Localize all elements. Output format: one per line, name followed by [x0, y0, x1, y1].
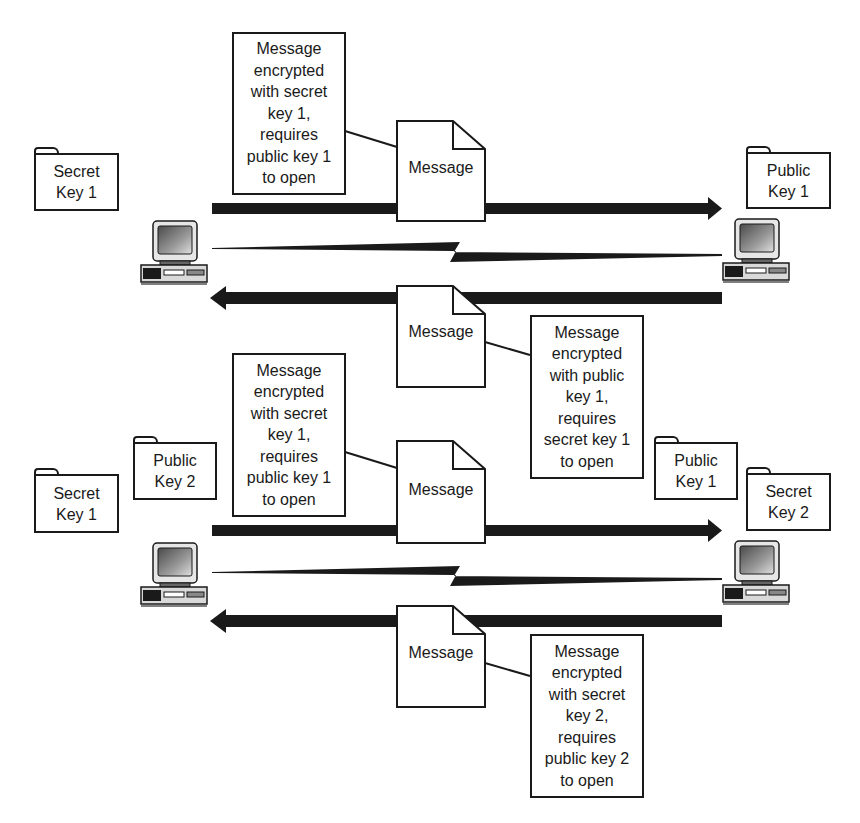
callout-line: to open	[262, 489, 315, 511]
callout-line: with secret	[549, 684, 625, 706]
callout-top-outgoing: Message encrypted with secret key 1, req…	[232, 32, 346, 195]
key-label-line: Key 2	[768, 502, 809, 523]
callout-line: secret key 1	[544, 429, 630, 451]
document-label: Message	[397, 323, 485, 341]
callout-line: to open	[262, 167, 315, 189]
lightning-link-icon	[212, 566, 722, 586]
folder-icon-secret-key-2: Secret Key 2	[746, 467, 831, 531]
desktop-computer-icon	[723, 219, 789, 282]
document-label: Message	[397, 481, 485, 499]
callout-line: requires	[558, 727, 616, 749]
callout-leader	[485, 342, 530, 355]
desktop-computer-icon	[141, 543, 207, 606]
folder-icon-public-key-1-top: Public Key 1	[746, 146, 831, 209]
callout-line: to open	[560, 451, 613, 473]
key-label-line: Key 1	[676, 471, 717, 492]
callout-bottom-outgoing: Message encrypted with secret key 1, req…	[232, 353, 346, 517]
callout-top-return: Message encrypted with public key 1, req…	[530, 315, 644, 479]
callout-line: key 1,	[268, 103, 311, 125]
callout-bottom-return: Message encrypted with secret key 2, req…	[530, 634, 644, 798]
callout-line: key 2,	[566, 705, 609, 727]
folder-label: Secret Key 2	[746, 473, 831, 531]
callout-line: Message	[555, 641, 620, 663]
folder-icon-secret-key-1-top: Secret Key 1	[34, 147, 119, 211]
callout-line: Message	[257, 360, 322, 382]
document-label: Message	[397, 644, 485, 662]
folder-label: Secret Key 1	[34, 153, 119, 211]
key-label-line: Key 2	[155, 471, 196, 492]
callout-line: key 1,	[566, 386, 609, 408]
key-label-line: Key 1	[56, 182, 97, 203]
key-label-line: Key 1	[768, 181, 809, 202]
callout-line: encrypted	[552, 343, 622, 365]
callout-leader	[485, 663, 530, 676]
key-label-line: Public	[767, 160, 811, 181]
key-label-line: Public	[674, 450, 718, 471]
folder-label: Public Key 1	[746, 152, 831, 209]
callout-line: with secret	[251, 403, 327, 425]
folder-icon-public-key-2: Public Key 2	[133, 436, 217, 500]
callout-leader	[345, 131, 397, 147]
lightning-link-icon	[212, 242, 722, 262]
callout-line: requires	[260, 124, 318, 146]
callout-line: to open	[560, 770, 613, 792]
callout-line: encrypted	[552, 662, 622, 684]
callout-line: public key 1	[247, 146, 332, 168]
callout-line: requires	[260, 446, 318, 468]
folder-label: Secret Key 1	[34, 474, 119, 533]
callout-line: with public	[550, 365, 625, 387]
key-label-line: Secret	[53, 161, 99, 182]
callout-line: encrypted	[254, 60, 324, 82]
callout-line: with secret	[251, 81, 327, 103]
document-label: Message	[397, 159, 485, 177]
callout-line: Message	[257, 38, 322, 60]
callout-leader	[345, 452, 397, 468]
callout-line: Message	[555, 322, 620, 344]
key-label-line: Public	[153, 450, 197, 471]
desktop-computer-icon	[141, 221, 207, 284]
folder-icon-secret-key-1-bottom: Secret Key 1	[34, 468, 119, 533]
key-label-line: Secret	[765, 481, 811, 502]
callout-line: public key 2	[545, 748, 630, 770]
diagram-graphics	[0, 0, 860, 823]
callout-line: requires	[558, 408, 616, 430]
folder-icon-public-key-1-bottom: Public Key 1	[654, 436, 738, 500]
callout-line: encrypted	[254, 381, 324, 403]
folder-label: Public Key 1	[654, 442, 738, 500]
key-label-line: Secret	[53, 483, 99, 504]
folder-label: Public Key 2	[133, 442, 217, 500]
callout-line: public key 1	[247, 467, 332, 489]
key-label-line: Key 1	[56, 504, 97, 525]
desktop-computer-icon	[723, 541, 789, 604]
callout-line: key 1,	[268, 424, 311, 446]
